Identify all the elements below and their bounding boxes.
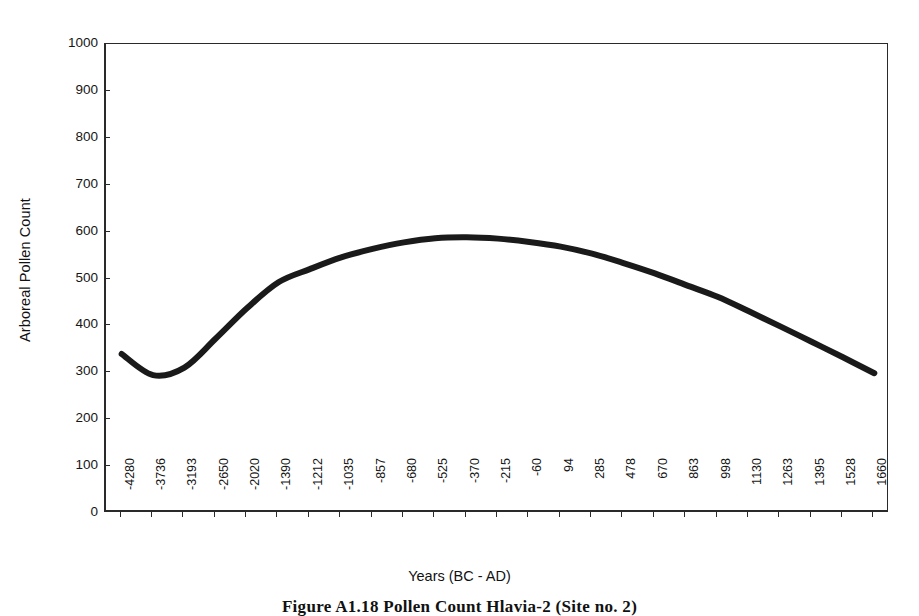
x-tick-label: 1660 bbox=[877, 458, 888, 518]
x-tick-label: 1263 bbox=[783, 458, 794, 518]
x-tick-mark bbox=[308, 512, 309, 517]
x-tick-label: -1035 bbox=[344, 458, 355, 518]
x-tick-mark bbox=[120, 512, 121, 517]
x-tick-mark bbox=[276, 512, 277, 517]
x-tick-label: 478 bbox=[626, 458, 637, 518]
x-tick-label: 998 bbox=[721, 458, 732, 518]
figure-caption: Figure A1.18 Pollen Count Hlavia-2 (Site… bbox=[0, 597, 919, 616]
x-tick-label: -1212 bbox=[313, 458, 324, 518]
x-tick-label: -3736 bbox=[156, 458, 167, 518]
x-tick-label: -680 bbox=[407, 458, 418, 518]
x-tick-label: -370 bbox=[470, 458, 481, 518]
x-tick-label: -3193 bbox=[187, 458, 198, 518]
x-tick-label: -60 bbox=[532, 458, 543, 518]
x-tick-mark bbox=[214, 512, 215, 517]
y-tick-mark bbox=[104, 231, 110, 232]
x-tick-label: 1528 bbox=[846, 458, 857, 518]
x-tick-mark bbox=[716, 512, 717, 517]
x-tick-mark bbox=[339, 512, 340, 517]
y-tick-mark bbox=[104, 278, 110, 279]
x-axis-title: Years (BC - AD) bbox=[0, 568, 919, 584]
x-tick-mark bbox=[590, 512, 591, 517]
y-tick-mark bbox=[104, 418, 110, 419]
x-tick-label: -2650 bbox=[219, 458, 230, 518]
x-tick-mark bbox=[465, 512, 466, 517]
x-tick-label: -525 bbox=[438, 458, 449, 518]
x-tick-mark bbox=[245, 512, 246, 517]
x-tick-mark bbox=[182, 512, 183, 517]
x-tick-label: 285 bbox=[595, 458, 606, 518]
x-tick-label: -215 bbox=[501, 458, 512, 518]
figure-page: Arboreal Pollen Count 100090080070060050… bbox=[0, 0, 919, 616]
x-tick-mark bbox=[684, 512, 685, 517]
x-tick-mark bbox=[872, 512, 873, 517]
x-tick-mark bbox=[433, 512, 434, 517]
x-tick-label: -2020 bbox=[250, 458, 261, 518]
x-axis-tick-labels: -4280-3736-3193-2650-2020-1390-1212-1035… bbox=[0, 0, 919, 616]
x-tick-label: 1130 bbox=[752, 458, 763, 518]
x-tick-label: 863 bbox=[689, 458, 700, 518]
x-tick-label: -1390 bbox=[281, 458, 292, 518]
y-tick-mark bbox=[104, 371, 110, 372]
x-tick-mark bbox=[151, 512, 152, 517]
x-tick-mark bbox=[810, 512, 811, 517]
x-tick-mark bbox=[496, 512, 497, 517]
x-tick-mark bbox=[527, 512, 528, 517]
x-tick-mark bbox=[402, 512, 403, 517]
y-tick-mark bbox=[104, 324, 110, 325]
x-tick-mark bbox=[653, 512, 654, 517]
x-tick-mark bbox=[621, 512, 622, 517]
y-tick-mark bbox=[104, 465, 110, 466]
x-tick-mark bbox=[559, 512, 560, 517]
x-tick-label: 670 bbox=[658, 458, 669, 518]
y-tick-mark bbox=[104, 90, 110, 91]
x-tick-label: -4280 bbox=[125, 458, 136, 518]
x-tick-mark bbox=[841, 512, 842, 517]
x-tick-mark bbox=[371, 512, 372, 517]
x-tick-label: 94 bbox=[564, 458, 575, 518]
x-tick-mark bbox=[747, 512, 748, 517]
x-tick-mark bbox=[778, 512, 779, 517]
x-tick-label: -857 bbox=[376, 458, 387, 518]
y-tick-mark bbox=[104, 137, 110, 138]
x-tick-label: 1395 bbox=[815, 458, 826, 518]
y-tick-mark bbox=[104, 184, 110, 185]
